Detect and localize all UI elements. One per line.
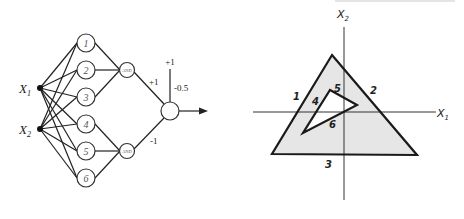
output-unit: [161, 102, 179, 120]
hidden-unit-6: 6: [77, 169, 95, 187]
hidden-unit-5: 5: [77, 142, 95, 160]
input-label-x1: X1: [18, 81, 31, 98]
line-label-4: 4: [311, 96, 319, 107]
x2-axis-label: X2: [336, 8, 350, 23]
lower-and-output-connection: [134, 118, 164, 149]
and-unit-lower: AND: [120, 144, 135, 159]
svg-text:6: 6: [84, 173, 89, 184]
bias-weight-label: -0.5: [174, 83, 189, 93]
line-label-1: 1: [293, 91, 300, 102]
svg-text:4: 4: [84, 119, 89, 130]
and-unit-upper: AND: [120, 63, 135, 78]
weight-lower: -1: [150, 136, 158, 146]
hidden-and-connections: [95, 43, 120, 178]
input-hidden-connections: [40, 43, 77, 178]
svg-text:AND: AND: [122, 149, 132, 154]
hidden-unit-1: 1: [77, 34, 95, 52]
line-label-2: 2: [370, 85, 377, 96]
hidden-unit-2: 2: [77, 61, 95, 79]
svg-text:5: 5: [84, 146, 89, 157]
neural-network-diagram: X1 X2 1 2 3 4 5 6 AND: [18, 34, 208, 187]
svg-text:1: 1: [84, 38, 89, 49]
hidden-unit-4: 4: [77, 115, 95, 133]
x1-axis-label: X1: [436, 107, 449, 122]
svg-text:3: 3: [83, 92, 89, 103]
line-label-6: 6: [329, 119, 336, 130]
weight-upper: +1: [149, 77, 159, 87]
hidden-unit-3: 3: [77, 88, 95, 106]
svg-text:2: 2: [84, 65, 89, 76]
decision-region-plot: X2 X1 1 2 3 4 5 6: [253, 8, 449, 200]
input-label-x2: X2: [18, 122, 31, 139]
bias-input-label: +1: [165, 57, 175, 67]
svg-text:AND: AND: [122, 68, 132, 73]
input-node-x1: [37, 85, 43, 91]
input-node-x2: [37, 126, 43, 132]
figure-canvas: X1 X2 1 2 3 4 5 6 AND: [0, 0, 464, 219]
output-arrow-icon: [199, 108, 208, 115]
line-label-3: 3: [325, 159, 332, 170]
line-label-5: 5: [334, 83, 341, 94]
